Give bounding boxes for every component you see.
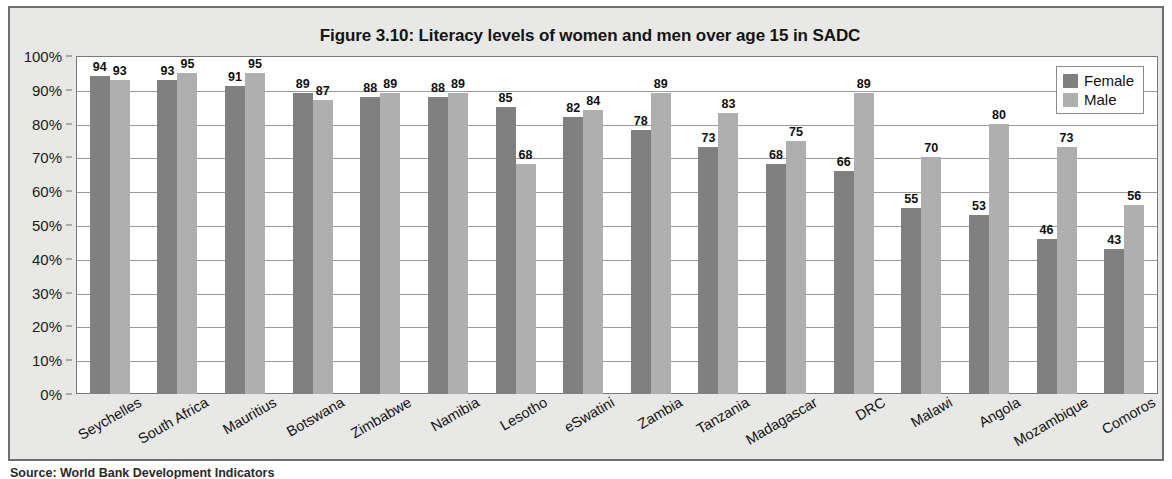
x-tick-label-malawi: Malawi [908,394,955,430]
source-caption: Source: World Bank Development Indicator… [10,466,274,479]
bar-value-label: 75 [789,125,803,139]
y-tick-label: 0% [40,386,62,403]
y-tick-label: 40% [32,250,62,267]
bar-value-label: 89 [383,77,397,91]
bar-male-drc [854,93,874,394]
bar-male-comoros [1124,205,1144,394]
y-tick-mark [66,56,72,57]
bar-group: 7889 [631,56,671,394]
x-tick-label-mozambique: Mozambique [1011,394,1091,449]
bar-value-label: 93 [113,64,127,78]
bar-value-label: 88 [431,81,445,95]
bar-value-label: 89 [857,77,871,91]
bar-value-label: 46 [1040,223,1054,237]
bar-female-mauritius [225,86,245,394]
x-tick-label-tanzania: Tanzania [694,394,752,437]
bar-value-label: 80 [992,108,1006,122]
x-tick-label-zambia: Zambia [635,394,685,432]
x-tick-label-eswatini: eSwatini [562,394,617,435]
y-tick-label: 100% [24,48,62,65]
x-axis: SeychellesSouth AfricaMauritiusBotswanaZ… [76,394,1158,466]
bar-female-lesotho [496,107,516,394]
bar-group: 8987 [293,56,333,394]
x-tick-label-mauritius: Mauritius [220,394,279,437]
bar-group: 4356 [1104,56,1144,394]
y-tick-mark [66,157,72,158]
bar-male-botswana [313,100,333,394]
bar-value-label: 56 [1127,189,1141,203]
x-tick-label-angola: Angola [976,394,1023,430]
bar-value-label: 73 [1060,131,1074,145]
bar-group: 6689 [834,56,874,394]
bar-male-angola [989,124,1009,394]
y-tick-label: 10% [32,352,62,369]
bar-male-eswatini [583,110,603,394]
y-tick-mark [66,89,72,90]
bar-value-label: 88 [363,81,377,95]
y-tick-label: 50% [32,217,62,234]
bar-value-label: 89 [451,77,465,91]
bar-group: 5570 [901,56,941,394]
bar-male-madagascar [786,141,806,395]
bar-value-label: 43 [1107,233,1121,247]
bar-value-label: 95 [248,57,262,71]
bar-female-madagascar [766,164,786,394]
bar-value-label: 93 [160,64,174,78]
bar-group: 9195 [225,56,265,394]
figure-page: Figure 3.10: Literacy levels of women an… [0,0,1172,479]
bar-male-malawi [921,157,941,394]
y-tick-label: 30% [32,284,62,301]
bar-male-zambia [651,93,671,394]
bar-female-drc [834,171,854,394]
y-tick-label: 60% [32,183,62,200]
bar-value-label: 85 [499,91,513,105]
bar-female-botswana [293,93,313,394]
bar-group: 8568 [496,56,536,394]
x-tick-label-drc: DRC [852,394,887,424]
bar-female-comoros [1104,249,1124,394]
bar-group: 8889 [428,56,468,394]
bar-group: 7383 [698,56,738,394]
bar-male-mauritius [245,73,265,394]
bar-value-label: 78 [634,114,648,128]
bar-value-label: 95 [180,57,194,71]
bar-group: 9395 [157,56,197,394]
bar-female-tanzania [698,147,718,394]
bar-female-seychelles [90,76,110,394]
bar-male-tanzania [718,113,738,394]
bar-female-zambia [631,130,651,394]
bar-value-label: 87 [316,84,330,98]
bar-male-seychelles [110,80,130,394]
y-tick-mark [66,360,72,361]
x-tick-label-lesotho: Lesotho [497,394,550,434]
bar-male-lesotho [516,164,536,394]
bar-male-zimbabwe [380,93,400,394]
bars-layer: Female Male 9493939591958987888988898568… [76,56,1158,394]
x-tick-label-namibia: Namibia [428,394,482,434]
bar-group: 4673 [1037,56,1077,394]
bar-male-mozambique [1057,147,1077,394]
bar-value-label: 91 [228,70,242,84]
bar-female-malawi [901,208,921,394]
y-tick-mark [66,123,72,124]
bar-group: 8284 [563,56,603,394]
bar-female-south-africa [157,80,177,394]
x-tick-label-seychelles: Seychelles [75,394,144,443]
bar-male-namibia [448,93,468,394]
bar-group: 9493 [90,56,130,394]
bar-female-angola [969,215,989,394]
bar-male-south-africa [177,73,197,394]
y-tick-label: 20% [32,318,62,335]
bar-group: 6875 [766,56,806,394]
bar-group: 5380 [969,56,1009,394]
bar-female-eswatini [563,117,583,394]
bar-value-label: 82 [566,101,580,115]
bar-value-label: 55 [904,192,918,206]
y-tick-mark [66,292,72,293]
x-tick-label-comoros: Comoros [1099,394,1158,437]
page-title: Figure 3.10: Literacy levels of women an… [70,26,1110,46]
y-tick-mark [66,225,72,226]
bar-value-label: 89 [296,77,310,91]
y-tick-mark [66,326,72,327]
y-tick-label: 70% [32,149,62,166]
